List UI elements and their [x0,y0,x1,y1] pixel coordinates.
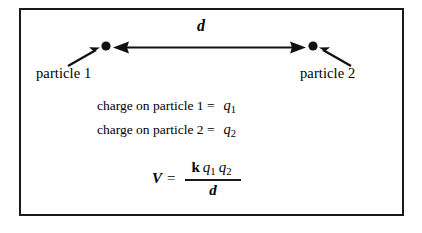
numerator-term-1-subscript: 1 [210,165,215,177]
equation-numerator: kq1q2 [185,160,240,179]
coulomb-constant-k: k [191,159,199,175]
separation-distance-label: d [197,18,205,34]
numerator-term-2: q2 [219,159,232,175]
numerator-term-1: q1 [203,159,216,175]
charge-line-1: charge on particle 1 =q1 [97,98,236,116]
figure-canvas: particle 1 particle 2 d charge on partic… [0,0,422,233]
particle-2-label: particle 2 [300,66,355,81]
equation-equals-sign: = [167,170,175,187]
charge-line-2-text: charge on particle 2 = [97,122,215,137]
charge-line-1-subscript: 1 [231,104,236,115]
charge-line-2-symbol-base: q [224,121,231,137]
particle-1-label: particle 1 [36,66,91,81]
equation-fraction: kq1q2 d [185,160,240,198]
equation-lhs: V [152,170,162,187]
charge-line-1-symbol-base: q [224,97,231,113]
charge-line-2: charge on particle 2 =q2 [97,122,236,140]
charge-line-2-symbol: q2 [224,121,236,137]
charge-line-1-symbol: q1 [224,97,236,113]
numerator-term-2-subscript: 2 [226,165,231,177]
equation-denominator: d [209,181,217,198]
charge-line-1-text: charge on particle 1 = [97,98,215,113]
potential-energy-equation: V = kq1q2 d [152,160,241,198]
charge-line-2-subscript: 2 [231,128,236,139]
